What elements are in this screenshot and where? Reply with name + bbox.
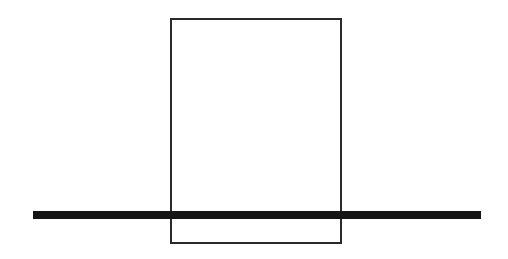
horizontal-bar	[33, 211, 481, 219]
diagram-canvas	[0, 0, 508, 259]
